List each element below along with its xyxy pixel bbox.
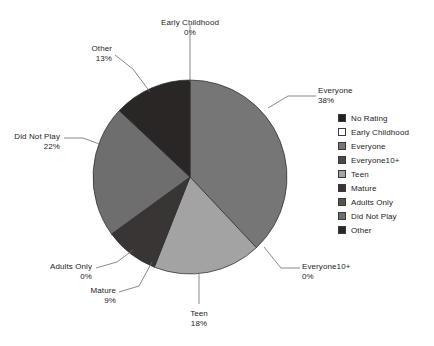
- callout-other: Other 13%: [68, 44, 112, 64]
- legend-item-everyone10-[interactable]: Everyone10+: [338, 153, 434, 167]
- callout-adults-only: Adults Only 0%: [24, 262, 92, 282]
- legend-swatch-icon: [338, 170, 346, 178]
- callout-other-percent: 13%: [68, 54, 112, 64]
- callout-early-childhood-percent: 0%: [133, 28, 247, 38]
- legend-item-label: Did Not Play: [351, 212, 397, 221]
- legend-item-no-rating[interactable]: No Rating: [338, 111, 434, 125]
- callout-did-not-play-percent: 22%: [0, 142, 60, 152]
- legend-item-label: Adults Only: [351, 198, 393, 207]
- leader-line-everyone10plus: [264, 247, 300, 268]
- legend-swatch-icon: [338, 226, 346, 234]
- legend-swatch-icon: [338, 128, 346, 136]
- callout-everyone10plus-percent: 0%: [302, 272, 350, 282]
- legend-swatch-icon: [338, 142, 346, 150]
- callout-teen-name: Teen: [169, 309, 229, 319]
- legend-item-teen[interactable]: Teen: [338, 167, 434, 181]
- leader-line-adults-only: [96, 250, 133, 268]
- leader-line-did-not-play: [64, 138, 102, 145]
- legend-item-adults-only[interactable]: Adults Only: [338, 195, 434, 209]
- leader-line-other: [115, 55, 150, 92]
- callout-teen: Teen 18%: [169, 309, 229, 329]
- legend-swatch-icon: [338, 212, 346, 220]
- legend-item-everyone[interactable]: Everyone: [338, 139, 434, 153]
- callout-adults-only-percent: 0%: [24, 272, 92, 282]
- callout-teen-percent: 18%: [169, 319, 229, 329]
- legend-item-mature[interactable]: Mature: [338, 181, 434, 195]
- callout-adults-only-name: Adults Only: [24, 262, 92, 272]
- chart-legend: No RatingEarly ChildhoodEveryoneEveryone…: [338, 111, 434, 237]
- legend-item-label: No Rating: [351, 114, 387, 123]
- legend-item-other[interactable]: Other: [338, 223, 434, 237]
- callout-everyone-percent: 38%: [318, 96, 353, 106]
- callout-mature-percent: 9%: [58, 296, 116, 306]
- legend-item-label: Mature: [351, 184, 377, 193]
- leader-line-everyone: [268, 96, 316, 108]
- legend-item-label: Early Childhood: [351, 128, 409, 137]
- legend-item-label: Everyone10+: [351, 156, 399, 165]
- callout-everyone: Everyone 38%: [318, 86, 353, 106]
- legend-swatch-icon: [338, 156, 346, 164]
- legend-swatch-icon: [338, 198, 346, 206]
- callout-other-name: Other: [68, 44, 112, 54]
- leader-line-mature: [119, 262, 152, 292]
- callout-did-not-play: Did Not Play 22%: [0, 132, 60, 152]
- callout-mature-name: Mature: [58, 286, 116, 296]
- callout-everyone10plus-name: Everyone10+: [302, 262, 350, 272]
- callout-early-childhood-name: Early Childhood: [133, 18, 247, 28]
- legend-item-label: Everyone: [351, 142, 386, 151]
- legend-swatch-icon: [338, 184, 346, 192]
- legend-item-did-not-play[interactable]: Did Not Play: [338, 209, 434, 223]
- legend-item-label: Other: [351, 226, 372, 235]
- legend-item-label: Teen: [351, 170, 369, 179]
- callout-everyone-name: Everyone: [318, 86, 353, 96]
- legend-item-early-childhood[interactable]: Early Childhood: [338, 125, 434, 139]
- callout-everyone10plus: Everyone10+ 0%: [302, 262, 350, 282]
- pie-slice-group: [93, 80, 287, 274]
- pie-chart-figure: Early Childhood 0% Everyone 38% Everyone…: [0, 0, 434, 346]
- legend-swatch-icon: [338, 114, 346, 122]
- callout-mature: Mature 9%: [58, 286, 116, 306]
- callout-did-not-play-name: Did Not Play: [0, 132, 60, 142]
- callout-early-childhood: Early Childhood 0%: [133, 18, 247, 38]
